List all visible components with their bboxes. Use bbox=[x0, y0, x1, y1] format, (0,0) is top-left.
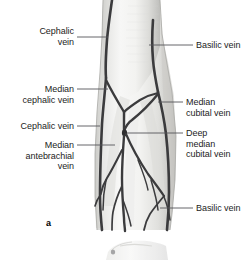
label-basilic-vein-lower: Basilic vein bbox=[196, 203, 246, 214]
figure-letter-a: a bbox=[46, 218, 51, 228]
label-median-antebrachial-vein: Median antebrachial vein bbox=[4, 140, 74, 172]
label-median-cephalic-vein: Median cephalic vein bbox=[4, 84, 74, 105]
bottom-figure-fragment bbox=[106, 241, 168, 260]
figure-container: Cephalic vein Basilic vein Median cephal… bbox=[0, 0, 246, 260]
label-cephalic-vein-upper: Cephalic vein bbox=[6, 26, 74, 47]
label-cephalic-vein-lower: Cephalic vein bbox=[6, 121, 74, 132]
label-basilic-vein-upper: Basilic vein bbox=[196, 40, 246, 51]
label-deep-median-cubital-vein: Deep median cubital vein bbox=[186, 128, 246, 160]
label-median-cubital-vein: Median cubital vein bbox=[186, 97, 246, 118]
